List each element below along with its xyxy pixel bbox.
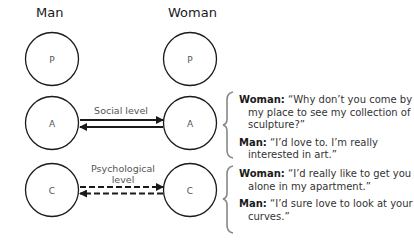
woman-child-circle: C xyxy=(164,164,217,217)
man-child-label: C xyxy=(49,186,55,196)
woman-adult-circle: A xyxy=(164,97,217,150)
man-adult-label: A xyxy=(49,119,56,129)
speaker-man: Man: xyxy=(239,137,267,148)
man-parent-label: P xyxy=(49,55,55,65)
man-parent-circle: P xyxy=(26,33,79,86)
woman-adult-label: A xyxy=(187,119,194,129)
social-man-line: Man: “I’d love to. I’m really interested… xyxy=(239,137,414,162)
social-level-label: Social level xyxy=(94,105,148,116)
psychological-man-line: Man: “I’d sure love to look at your curv… xyxy=(239,198,414,223)
social-brace-icon xyxy=(223,92,233,158)
woman-parent-label: P xyxy=(187,55,193,65)
man-child-circle: C xyxy=(26,164,79,217)
social-dialogue: Woman: “Why don’t you come by my place t… xyxy=(239,94,414,162)
woman-parent-circle: P xyxy=(164,33,217,86)
social-woman-line: Woman: “Why don’t you come by my place t… xyxy=(239,94,414,132)
speaker-woman: Woman: xyxy=(239,168,285,179)
social-man-quote: “I’d love to. I’m really interested in a… xyxy=(248,137,378,161)
man-adult-circle: A xyxy=(26,97,79,150)
psychological-level-label-line2: level xyxy=(112,174,135,185)
speaker-man: Man: xyxy=(239,198,267,209)
speaker-woman: Woman: xyxy=(239,94,285,105)
psychological-level-label-line1: Psychological xyxy=(91,163,155,174)
psychological-dialogue: Woman: “I’d really like to get you alone… xyxy=(239,168,414,223)
woman-child-label: C xyxy=(187,186,193,196)
psychological-man-quote: “I’d sure love to look at your curves.” xyxy=(248,198,413,222)
psychological-brace-icon xyxy=(223,166,233,233)
psychological-woman-line: Woman: “I’d really like to get you alone… xyxy=(239,168,414,193)
